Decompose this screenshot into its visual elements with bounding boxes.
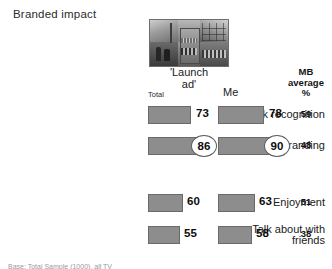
mb-line3: % [283, 88, 329, 99]
photo-sign-text-lower [181, 48, 197, 55]
bar-group-total: 60 [148, 192, 218, 214]
photo-sign-panel [180, 28, 200, 64]
bar-me [218, 226, 252, 244]
bar-group-me: 63 [218, 192, 288, 214]
table-row: Branding 86 90 48 [0, 135, 332, 157]
launch-ad-thumbnail [149, 19, 229, 67]
table-row: Enjoyment 60 63 51 [0, 192, 332, 214]
source-footnote: Base: Total Sample (1000), all TV [8, 263, 308, 269]
photo-figure-a [156, 47, 161, 61]
column-header-mb-average: MB average % [283, 67, 329, 99]
launch-ad-line1: 'Launch [156, 67, 222, 79]
photo-region-sky-left [150, 20, 178, 42]
mb-average-value: 51 [283, 196, 329, 207]
bar-group-total: 86 [148, 135, 218, 157]
bar-me [218, 106, 264, 124]
photo-storefront-strip [202, 50, 226, 58]
photo-sign-text-upper [181, 38, 197, 43]
table-row: Talk about with friends 55 58 38 [0, 224, 332, 246]
bar-value-total-highlight: 86 [191, 135, 217, 157]
mb-average-value: 59 [283, 108, 329, 119]
bar-group-total: 55 [148, 224, 218, 246]
launch-ad-line2: ad' [156, 79, 222, 91]
bar-value-total: 60 [187, 195, 200, 207]
column-header-me: Me [223, 86, 238, 98]
mb-average-value: 38 [283, 228, 329, 239]
bar-value-me: 63 [259, 195, 272, 207]
column-header-total: Total [148, 90, 164, 99]
page-title: Branded impact [13, 8, 96, 20]
photo-pole [170, 23, 172, 43]
bar-group-total: 73 [148, 104, 218, 126]
slide-canvas: Branded impact 'Launch ad' Total Me MB a… [0, 0, 332, 269]
table-row: Peak recognition 73 78 59 [0, 104, 332, 126]
bar-value-me: 58 [256, 227, 269, 239]
mb-average-value: 48 [283, 139, 329, 150]
bar-total [148, 226, 180, 244]
bar-me [218, 194, 255, 212]
bar-total [148, 194, 183, 212]
bar-value-total: 55 [184, 227, 197, 239]
photo-building-grid [202, 23, 226, 41]
column-header-launch-ad: 'Launch ad' [156, 67, 222, 90]
bar-total [148, 106, 191, 124]
bar-group-me: 58 [218, 224, 288, 246]
bar-value-me: 78 [269, 107, 282, 119]
bar-value-total: 73 [196, 107, 209, 119]
bar-group-me: 78 [218, 104, 288, 126]
bar-group-me: 90 [218, 135, 288, 157]
photo-figure-b [164, 49, 170, 61]
mb-line1: MB [283, 67, 329, 78]
